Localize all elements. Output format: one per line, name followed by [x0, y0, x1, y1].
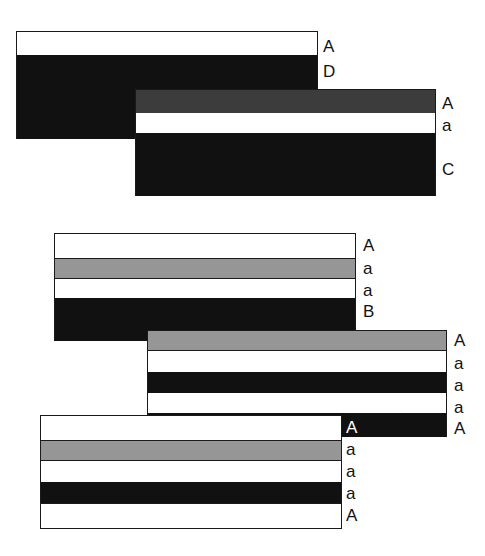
label-g5-4: a	[346, 485, 355, 502]
label-g3-2: a	[363, 260, 372, 277]
band-black	[136, 133, 435, 196]
label-g2-2: a	[442, 117, 451, 134]
band-white	[148, 351, 446, 372]
stack-group-3	[54, 233, 356, 341]
label-g4-5: A	[454, 420, 465, 437]
band-gray	[41, 440, 341, 461]
label-g5-3: a	[346, 463, 355, 480]
band-white	[41, 503, 341, 528]
band-black	[148, 372, 446, 393]
band-white	[41, 461, 341, 482]
band-white	[55, 279, 355, 298]
label-g3-1: A	[363, 237, 374, 254]
label-g4-4: a	[454, 399, 463, 416]
band-white	[41, 416, 341, 440]
label-g3-4: B	[363, 303, 374, 320]
label-g5-5: A	[346, 507, 357, 524]
label-g2-1: A	[442, 95, 453, 112]
label-g3-3: a	[363, 282, 372, 299]
band-white	[55, 234, 355, 258]
label-g4-2: a	[454, 355, 463, 372]
band-darkgray	[136, 90, 435, 113]
label-g1-1: A	[323, 38, 334, 55]
label-g5-2: a	[346, 441, 355, 458]
label-g4-1: A	[454, 332, 465, 349]
label-g4-3: a	[454, 377, 463, 394]
band-white	[148, 393, 446, 413]
stack-group-2	[135, 89, 436, 196]
band-gray	[148, 331, 446, 351]
band-white	[17, 32, 317, 55]
stack-group-5	[40, 415, 342, 529]
band-white	[136, 113, 435, 133]
band-gray	[55, 258, 355, 279]
label-g1-2: D	[323, 63, 335, 80]
band-black	[41, 482, 341, 503]
label-g5-1: A	[346, 419, 357, 436]
label-g2-3: C	[442, 161, 454, 178]
